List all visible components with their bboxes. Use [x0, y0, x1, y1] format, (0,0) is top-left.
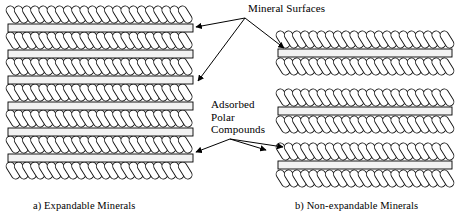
label-adsorbed-polar-compounds: AdsorbedPolarCompounds [211, 98, 265, 136]
mineral-surface-left-3 [8, 102, 193, 110]
mineral-diagram-figure: Mineral Surfaces AdsorbedPolarCompounds … [0, 0, 469, 220]
mineral-surface-left-4 [8, 128, 193, 136]
adsorbed-layer-left-1 [5, 30, 194, 50]
adsorbed-layer-left-3 [5, 82, 194, 102]
adsorbed-polar-compounds-arrow-1 [230, 139, 266, 150]
right-panel-nonexpandable [275, 29, 456, 188]
label-adsorbed-line2: Polar [211, 111, 235, 123]
adsorbed-layer-right-1-top [275, 87, 456, 107]
mineral-surface-left-1 [8, 50, 193, 58]
adsorbed-layer-left-2 [5, 56, 194, 76]
label-mineral-surfaces: Mineral Surfaces [248, 2, 325, 15]
caption-non-expandable-minerals: b) Non-expandable Minerals [295, 200, 418, 213]
adsorbed-layer-left-6 [5, 160, 194, 180]
mineral-surfaces-arrow-0 [196, 18, 245, 27]
adsorbed-layer-left-0 [5, 4, 194, 24]
adsorbed-layer-right-1-bottom [275, 114, 456, 134]
mineral-surface-right-0 [278, 49, 452, 57]
mineral-surface-right-2 [278, 161, 452, 169]
adsorbed-polar-compounds-arrow-0 [196, 139, 230, 152]
adsorbed-polar-compounds-arrow-2 [230, 139, 283, 147]
adsorbed-layer-left-4 [5, 108, 194, 128]
label-adsorbed-line1: Adsorbed [211, 98, 255, 110]
left-panel-expandable [5, 4, 194, 180]
adsorbed-layer-right-2-top [275, 141, 456, 161]
adsorbed-layer-right-2-bottom [275, 168, 456, 188]
mineral-surface-left-5 [8, 154, 193, 162]
mineral-surface-left-0 [8, 24, 193, 32]
adsorbed-layer-left-5 [5, 134, 194, 154]
mineral-surface-right-1 [278, 107, 452, 115]
mineral-surfaces-arrow-1 [198, 18, 245, 81]
adsorbed-layer-right-0-bottom [275, 56, 456, 76]
adsorbed-layer-right-0-top [275, 29, 456, 49]
mineral-surface-left-2 [8, 76, 193, 84]
label-adsorbed-line3: Compounds [211, 123, 265, 135]
caption-expandable-minerals: a) Expandable Minerals [33, 200, 136, 213]
